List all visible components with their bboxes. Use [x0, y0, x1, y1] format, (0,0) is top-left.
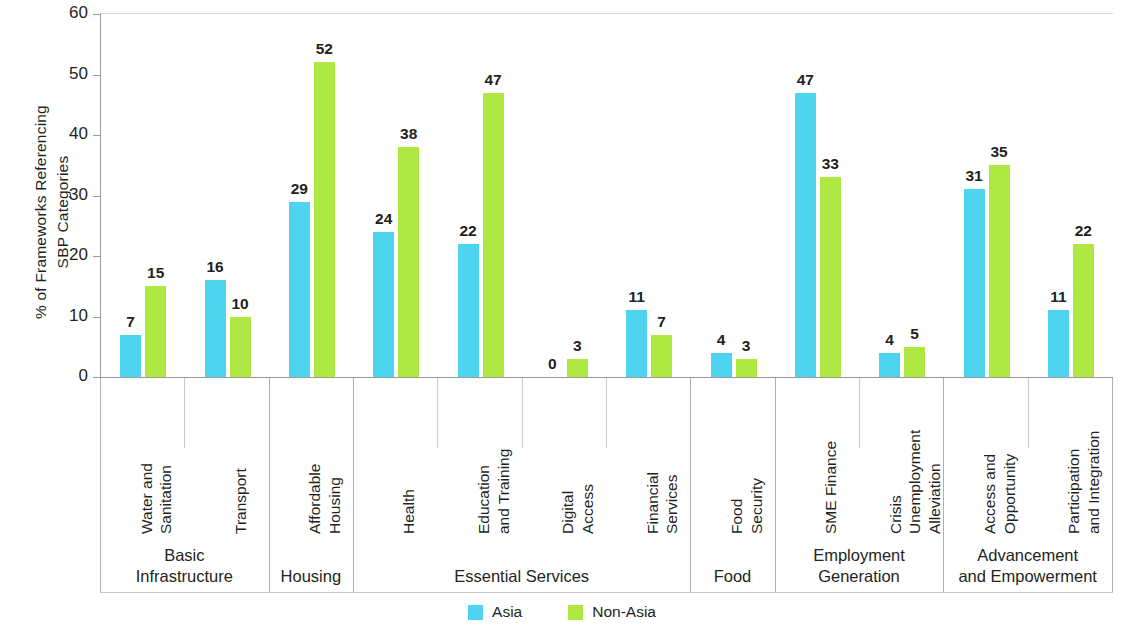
y-axis-tick: [93, 196, 100, 197]
bar-value-label: 35: [979, 143, 1019, 161]
category-separator-minor: [1028, 378, 1029, 448]
bar-value-label: 5: [895, 325, 935, 343]
category-label-line: Transport: [231, 468, 251, 534]
plot-area: 7151610295224382247031174347334531351122: [100, 14, 1113, 378]
bar-asia: [879, 353, 900, 377]
bar-value-label: 38: [389, 125, 429, 143]
group-separator: [690, 378, 691, 593]
category-band-baseline: [100, 592, 1113, 593]
bar-non: [230, 317, 251, 378]
bar-non: [398, 147, 419, 377]
category-label-line: Access and: [980, 454, 1000, 534]
bar-value-label: 15: [136, 264, 176, 282]
category-label-line: Unemployment: [905, 430, 925, 534]
category-separator-minor: [184, 378, 185, 448]
category-axis-band: Water andSanitationTransportAffordableHo…: [100, 378, 1113, 593]
bar-asia: [795, 93, 816, 377]
bar-non: [989, 165, 1010, 377]
y-axis-tick-label: 30: [48, 185, 88, 205]
bar-non: [314, 62, 335, 377]
y-axis-tick: [93, 317, 100, 318]
y-axis-tick-label: 40: [48, 124, 88, 144]
chart-legend: AsiaNon-Asia: [0, 603, 1124, 621]
category-label-line: Affordable: [305, 464, 325, 534]
bar-non: [483, 93, 504, 377]
bar-non: [651, 335, 672, 377]
group-separator: [1112, 378, 1113, 593]
bar-asia: [373, 232, 394, 377]
bar-value-label: 22: [1063, 222, 1103, 240]
y-axis-tick-label: 10: [48, 306, 88, 326]
bar-value-label: 52: [304, 40, 344, 58]
category-separator-minor: [606, 378, 607, 448]
group-label: Housing: [269, 566, 353, 587]
bar-asia: [1048, 310, 1069, 377]
category-label-line: Access: [578, 484, 598, 534]
legend-item[interactable]: Non-Asia: [568, 603, 656, 621]
legend-swatch-icon: [568, 605, 583, 620]
bar-asia: [711, 353, 732, 377]
chart-figure: % of Frameworks Referencing SBP Categori…: [0, 0, 1124, 630]
y-axis-tick: [93, 14, 100, 15]
category-label-line: Health: [399, 489, 419, 534]
category-separator-minor: [522, 378, 523, 448]
bar-value-label: 47: [473, 71, 513, 89]
bar-asia: [458, 244, 479, 377]
group-label: Basic Infrastructure: [100, 545, 269, 587]
bar-asia: [120, 335, 141, 377]
bar-value-label: 3: [726, 337, 766, 355]
legend-swatch-icon: [468, 605, 483, 620]
bar-value-label: 33: [810, 155, 850, 173]
bar-value-label: 47: [785, 71, 825, 89]
y-axis-title: % of Frameworks Referencing SBP Categori…: [30, 32, 74, 392]
category-label-line: SME Finance: [821, 441, 841, 534]
group-label: Employment Generation: [775, 545, 944, 587]
bar-asia: [964, 189, 985, 377]
category-label-line: Opportunity: [1000, 454, 1020, 534]
bar-non: [567, 359, 588, 377]
group-label: Essential Services: [353, 566, 690, 587]
y-axis-tick-label: 60: [48, 3, 88, 23]
bar-non: [736, 359, 757, 377]
category-label-line: Education: [474, 465, 494, 534]
category-separator-minor: [437, 378, 438, 448]
category-label-line: Sanitation: [156, 465, 176, 534]
y-axis-tick: [93, 135, 100, 136]
category-label-line: Digital: [558, 491, 578, 534]
category-label-line: Housing: [325, 477, 345, 534]
y-axis-tick: [93, 256, 100, 257]
category-label-line: Alleviation: [925, 463, 945, 534]
bar-non: [820, 177, 841, 377]
y-axis-tick-label: 50: [48, 64, 88, 84]
bar-non: [1073, 244, 1094, 377]
y-axis-tick: [93, 377, 100, 378]
category-label-line: Water and: [137, 463, 157, 534]
bar-non: [145, 286, 166, 377]
category-label-line: and Training: [494, 449, 514, 534]
bar-value-label: 10: [220, 295, 260, 313]
legend-label: Non-Asia: [592, 603, 656, 621]
bar-asia: [289, 202, 310, 377]
category-label-line: Participation: [1064, 449, 1084, 534]
group-separator: [269, 378, 270, 593]
category-label-line: Security: [747, 478, 767, 534]
category-label-line: and Integration: [1084, 431, 1104, 534]
bar-non: [904, 347, 925, 377]
category-label-line: Services: [662, 475, 682, 534]
bar-value-label: 16: [195, 258, 235, 276]
bar-value-label: 3: [557, 337, 597, 355]
legend-item[interactable]: Asia: [468, 603, 522, 621]
group-label: Advancement and Empowerment: [943, 545, 1112, 587]
bar-value-label: 11: [617, 288, 657, 306]
category-label-line: Financial: [643, 472, 663, 534]
y-axis-tick: [93, 75, 100, 76]
group-separator: [353, 378, 354, 593]
category-label-line: Food: [727, 499, 747, 534]
bar-value-label: 7: [642, 313, 682, 331]
category-label-line: Crisis: [886, 495, 906, 534]
group-label: Food: [690, 566, 774, 587]
legend-label: Asia: [492, 603, 522, 621]
y-axis-tick-label: 20: [48, 245, 88, 265]
y-axis-tick-label: 0: [48, 366, 88, 386]
category-separator-minor: [859, 378, 860, 448]
